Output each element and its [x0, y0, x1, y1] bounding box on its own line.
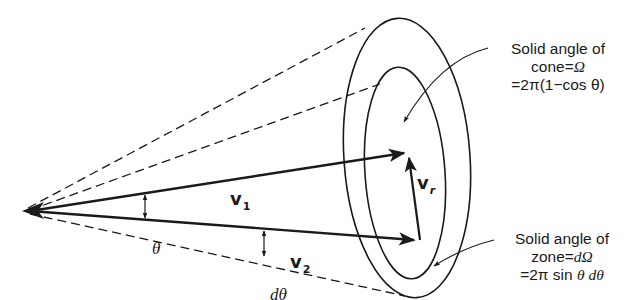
domega-symbol: dΩ: [574, 248, 593, 265]
label-v2: v2: [290, 253, 310, 271]
vector-v2-line: [30, 211, 414, 240]
zone-annotation-line2: zone=dΩ: [492, 248, 632, 266]
cone-equals: =: [565, 58, 574, 75]
cone-annotation-line3: =2π(1−cos θ): [488, 76, 628, 94]
vector-vr-line: [409, 158, 420, 240]
zone-equals: =: [565, 248, 574, 265]
zone-annotation: Solid angle of zone=dΩ =2π sin θ dθ: [492, 230, 632, 284]
v2-base: v: [290, 251, 302, 272]
cone-annotation-line1: Solid angle of: [488, 40, 628, 58]
label-dtheta: dθ: [270, 286, 287, 300]
cone-word: cone: [531, 58, 565, 75]
vr-subscript: r: [430, 184, 435, 197]
vr-base: v: [417, 172, 429, 193]
label-v1: v1: [230, 190, 250, 208]
zone-leader-line: [434, 240, 494, 266]
v1-base: v: [230, 188, 242, 209]
cone-annotation: Solid angle of cone=Ω =2π(1−cos θ): [488, 40, 628, 94]
cone-annotation-line2: cone=Ω: [488, 58, 628, 76]
label-vr: vr: [417, 174, 435, 192]
inner-ellipse: [358, 64, 453, 281]
v1-subscript: 1: [243, 200, 251, 213]
zone-annotation-line3: =2π sin θ dθ: [492, 266, 632, 284]
vector-v1-line: [30, 153, 404, 211]
zone-formula-prefix: =2π sin: [520, 266, 577, 283]
zone-formula-math: θ dθ: [577, 266, 604, 283]
solid-angle-diagram: v1 v2 vr θ dθ Solid angle of cone=Ω =2π(…: [0, 0, 632, 300]
omega-symbol: Ω: [574, 58, 585, 75]
label-theta: θ: [152, 240, 160, 257]
zone-word: zone: [531, 248, 565, 265]
zone-annotation-line1: Solid angle of: [492, 230, 632, 248]
v2-subscript: 2: [303, 263, 311, 276]
outer-ellipse: [334, 14, 479, 300]
